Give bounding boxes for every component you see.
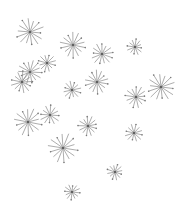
starburst-scene (0, 0, 187, 210)
starburst-3 (127, 38, 143, 54)
starburst-15 (125, 124, 142, 141)
starburst-0 (16, 19, 43, 46)
starburst-11 (15, 109, 43, 136)
starburst-10 (124, 86, 145, 108)
starburst-17 (64, 185, 81, 200)
starburst-12 (40, 104, 59, 123)
starburst-14 (48, 134, 78, 163)
starburst-16 (107, 164, 122, 180)
starburst-8 (64, 81, 81, 98)
starburst-13 (77, 116, 97, 137)
starburst-9 (148, 74, 174, 99)
starburst-2 (92, 43, 113, 64)
starbursts-layer (0, 0, 187, 210)
starburst-7 (85, 70, 109, 95)
starburst-4 (38, 55, 56, 73)
starburst-1 (60, 32, 86, 58)
